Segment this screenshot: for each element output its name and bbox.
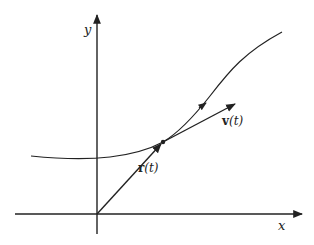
v-vector-label: v(t) [221,114,243,128]
curve-direction-arrow-icon [199,103,206,108]
position-vector-r [97,144,161,214]
diagram-canvas: y x r(t) v(t) [0,0,314,245]
v-vector-label-arg: (t) [229,114,244,128]
y-axis-label: y [83,22,92,37]
trajectory-curve [31,32,282,159]
r-vector-label-arg: (t) [144,161,159,175]
r-vector-label: r(t) [138,161,159,175]
x-axis-label: x [278,218,286,233]
